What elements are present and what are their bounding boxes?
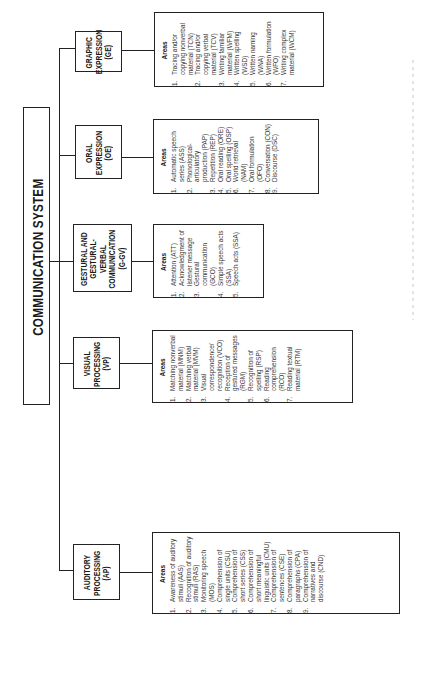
category-name-line: (AP) bbox=[102, 566, 112, 580]
area-item: 1.Tracing and/or copying nonverbal mater… bbox=[171, 15, 194, 86]
area-item: 1.Attention (ATT) bbox=[170, 227, 178, 297]
area-item: 4.Reception of gestured messages (RGM) bbox=[224, 333, 247, 402]
category-box-vp: VISUAL PROCESSING (VP) bbox=[73, 337, 120, 389]
category-box-ap: AUDITORY PROCESSING (AP) bbox=[73, 544, 120, 600]
areas-box-oe: Areas 1.Automatic speech series (ASS) 2.… bbox=[153, 119, 319, 194]
vp-areas-connector bbox=[120, 363, 152, 364]
area-item: 4.Oral reading (ORE) bbox=[217, 122, 225, 193]
area-item: 2.Acknowledgment of listener message bbox=[178, 227, 194, 297]
area-item: 7.Comprehension of sentences (CSE) bbox=[270, 535, 286, 613]
areas-box-ap: Areas 1.Awareness of auditory stimuli (A… bbox=[152, 532, 400, 614]
area-item: 5.Comprehension of short series (CSS) bbox=[231, 535, 247, 613]
areas-heading: Areas bbox=[160, 227, 167, 297]
oe-areas-connector bbox=[122, 157, 153, 158]
tree-stem-line bbox=[59, 48, 60, 571]
area-item: 1.Automatic speech series (ASS) bbox=[170, 122, 186, 193]
ggv-areas-connector bbox=[132, 261, 153, 262]
areas-heading: Areas bbox=[159, 535, 166, 613]
area-item: 3.Gestural communication (GCO) bbox=[193, 227, 216, 297]
area-item: 9.Comprehension of narratives and discou… bbox=[302, 535, 325, 613]
area-item: 5.Recognition of spelling (RSP) bbox=[247, 333, 263, 402]
ge-stem-connector bbox=[59, 48, 75, 49]
area-item: 6.World retrieval (NAM) bbox=[232, 122, 248, 193]
area-item: 4.Written spelling (WSD) bbox=[233, 15, 249, 86]
category-name-line: (VP) bbox=[102, 357, 112, 371]
ap-stem-connector bbox=[59, 570, 73, 571]
oe-stem-connector bbox=[59, 155, 75, 156]
area-item: 2.Recognition of auditory stimuli (RAS) bbox=[185, 535, 201, 613]
area-item: 5.Written naming (WNA) bbox=[249, 15, 265, 86]
area-item: 7.Writing complex material (WCM) bbox=[280, 15, 296, 86]
vp-stem-connector bbox=[59, 363, 73, 364]
area-item: 6.Written formulation (WFO) bbox=[265, 15, 281, 86]
areas-box-ge: Areas 1.Tracing and/or copying nonverbal… bbox=[154, 12, 324, 87]
area-item: 8.Conversation (CON) bbox=[264, 122, 272, 193]
area-item: 3.Monitoring speech (MOS) bbox=[200, 535, 216, 613]
area-item: 3.Visual correspondence/ recognition (VC… bbox=[200, 333, 223, 402]
category-box-oe: ORAL EXPRESSION (OE) bbox=[75, 125, 122, 179]
area-item: 2.Phonological-articulatory production (… bbox=[186, 122, 209, 193]
area-item: 3.Writing familiar material (WFM) bbox=[218, 15, 234, 86]
area-item: 6.Reading comprehension (RCO) bbox=[263, 333, 286, 402]
area-item: 7.Oral formulation (OFO) bbox=[248, 122, 264, 193]
area-item: 2.Matching verbal material (MVM) bbox=[185, 333, 201, 402]
area-item: 8.Comprehension of paragraphs (CPA) bbox=[286, 535, 302, 613]
area-item: 4.Simple speech acts (SSA) bbox=[217, 227, 233, 297]
category-name-line: GESTURAL-VERBAL bbox=[89, 231, 108, 287]
category-name-line: (OE) bbox=[104, 146, 114, 160]
area-item: 1.Matching nonverbal material (MNM) bbox=[169, 333, 185, 402]
area-item: 5.Oral spelling (OSP) bbox=[225, 122, 233, 193]
area-item: 2.Tracing and/or copying verbal material… bbox=[194, 15, 217, 86]
areas-box-ggv: Areas 1.Attention (ATT) 2.Acknowledgment… bbox=[153, 224, 264, 298]
area-item: 1.Awareness of auditory stimuli (AAS) bbox=[169, 535, 185, 613]
areas-heading: Areas bbox=[159, 333, 166, 402]
area-item: 3.Repetition (REP) bbox=[209, 122, 217, 193]
category-name-line: (G-GV) bbox=[118, 248, 128, 270]
title-box: COMMUNICATION SYSTEM bbox=[23, 107, 50, 405]
area-item: 6.Comprehension of short meaningful ling… bbox=[247, 535, 270, 613]
areas-heading: Areas bbox=[161, 15, 168, 86]
ge-areas-connector bbox=[122, 50, 154, 51]
areas-heading: Areas bbox=[160, 122, 167, 193]
area-item: 5.Speech acts (SSA) bbox=[232, 227, 240, 297]
category-box-ggv: GESTURAL and GESTURAL-VERBAL COMMUNICATI… bbox=[73, 224, 132, 292]
page-title: COMMUNICATION SYSTEM bbox=[29, 178, 46, 335]
category-name-line: (GE) bbox=[104, 45, 114, 59]
area-item: 9.Discourse (DSC) bbox=[271, 122, 279, 193]
areas-box-vp: Areas 1.Matching nonverbal material (MNM… bbox=[152, 330, 353, 403]
area-item: 7.Reading textual material (RTM) bbox=[286, 333, 302, 402]
faint-caption-marks bbox=[412, 60, 414, 320]
ggv-stem-connector bbox=[59, 261, 73, 262]
area-item: 4.Comprehension of single units (CSU) bbox=[216, 535, 232, 613]
ap-areas-connector bbox=[120, 572, 152, 573]
category-box-ge: GRAPHIC EXPRESSION (GE) bbox=[75, 31, 122, 72]
